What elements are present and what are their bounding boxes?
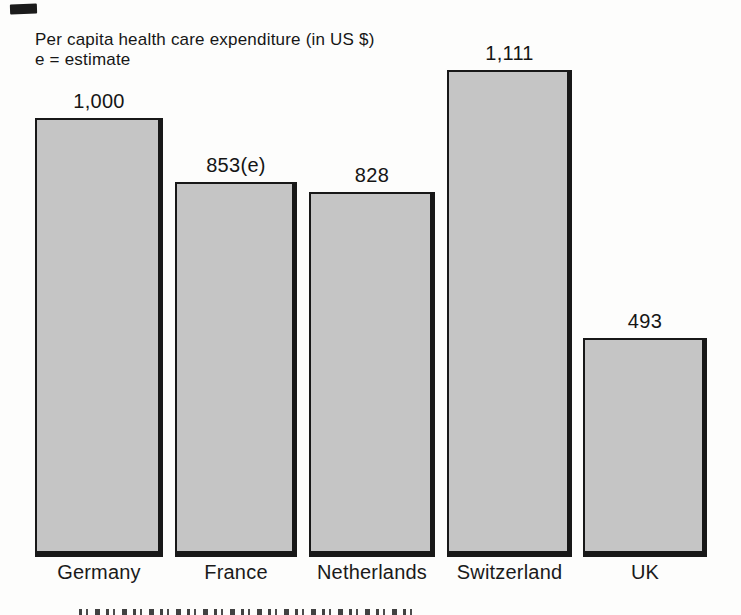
bar-category-label: Germany [35,561,163,583]
scanned-bar-chart-page: Per capita health care expenditure (in U… [0,0,741,615]
bar-value-label: 853(e) [175,154,297,176]
bar-value-label: 493 [583,310,707,332]
cropped-caption-fragment [79,609,417,615]
chart-note-estimate: e = estimate [35,50,375,70]
bar-switzerland [447,70,572,557]
scan-artifact-mark [10,4,37,15]
bar-france [175,182,297,557]
bar-value-label: 828 [309,164,435,186]
bar-germany [35,118,163,557]
bar-category-label: France [175,561,297,583]
bar-category-label: Switzerland [447,561,572,583]
bar-value-label: 1,111 [447,42,572,64]
bar-category-label: UK [583,561,707,583]
bar-netherlands [309,192,435,557]
bar-category-label: Netherlands [309,561,435,583]
chart-title-block: Per capita health care expenditure (in U… [35,30,375,70]
bar-value-label: 1,000 [35,90,163,112]
bar-uk [583,338,707,557]
chart-title: Per capita health care expenditure (in U… [35,30,375,50]
